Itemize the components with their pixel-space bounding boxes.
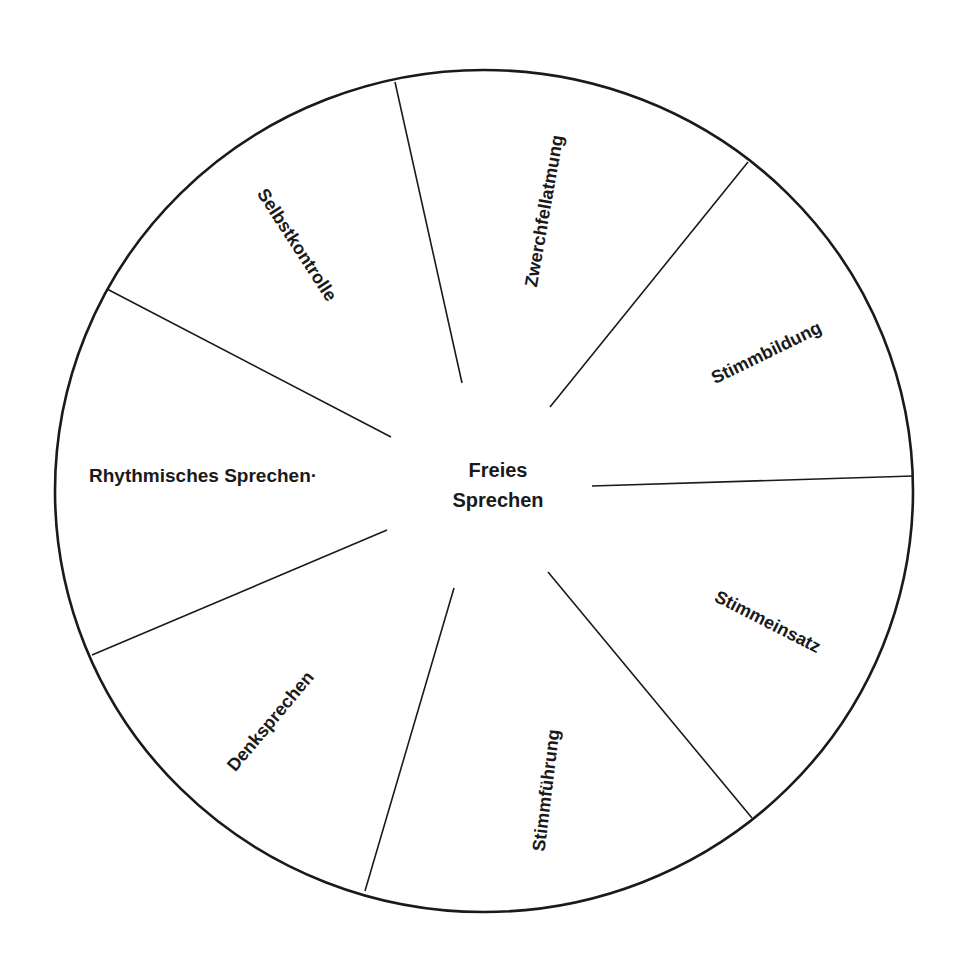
- center-label-line1: Freies: [469, 459, 528, 481]
- segment-label-selbstkontrolle: Selbstkontrolle: [253, 185, 341, 305]
- segment-label-zwerchfellatmung: Zwerchfellatmung: [521, 133, 567, 288]
- spokes: [92, 82, 913, 891]
- spoke-upper-left: [107, 289, 391, 437]
- spoke-top: [395, 82, 462, 383]
- wheel-diagram: Freies Sprechen Zwerchfellatmung Stimmbi…: [0, 0, 966, 967]
- segment-label-denksprechen: Denksprechen: [223, 667, 318, 775]
- spoke-bottom: [365, 588, 454, 891]
- center-label-line2: Sprechen: [452, 489, 543, 511]
- segment-label-stimmfuehrung: Stimmführung: [529, 728, 564, 853]
- segment-label-rhythmisches-sprechen: Rhythmisches Sprechen·: [89, 465, 317, 486]
- segment-label-stimmeinsatz: Stimmeinsatz: [711, 586, 823, 657]
- spoke-right: [592, 476, 913, 486]
- segment-label-stimmbildung: Stimmbildung: [708, 317, 825, 388]
- spoke-lower-left: [92, 530, 387, 655]
